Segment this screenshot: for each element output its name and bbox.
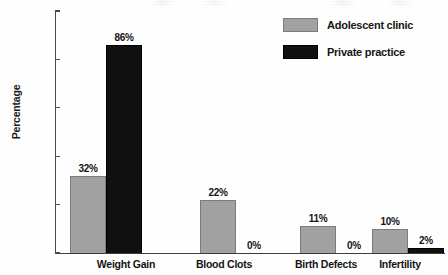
bar-value-label: 10% — [367, 216, 413, 227]
bar — [408, 248, 444, 253]
legend-label: Private practice — [327, 46, 405, 58]
bar-value-label: 0% — [331, 240, 377, 251]
scan-artifact-top — [150, 0, 440, 6]
legend-label: Adolescent clinic — [327, 19, 413, 31]
y-axis-title: Percentage — [10, 67, 22, 157]
legend-swatch — [283, 45, 318, 59]
bar-value-label: 2% — [403, 235, 448, 246]
bar — [106, 45, 142, 253]
bar-value-label: 22% — [195, 187, 241, 198]
legend-swatch — [283, 18, 318, 32]
bar-value-label: 0% — [231, 240, 277, 251]
bar-value-label: 86% — [101, 32, 147, 43]
x-axis-category-label: Infertility — [330, 258, 448, 270]
bar-chart: Percentage 020406080100 32%86%22%0%11%0%… — [0, 0, 448, 275]
legend-item: Private practice — [283, 42, 413, 62]
bar-value-label: 32% — [65, 163, 111, 174]
bar — [70, 176, 106, 253]
chart-legend: Adolescent clinicPrivate practice — [283, 15, 413, 69]
legend-item: Adolescent clinic — [283, 15, 413, 35]
bar-value-label: 11% — [295, 213, 341, 224]
